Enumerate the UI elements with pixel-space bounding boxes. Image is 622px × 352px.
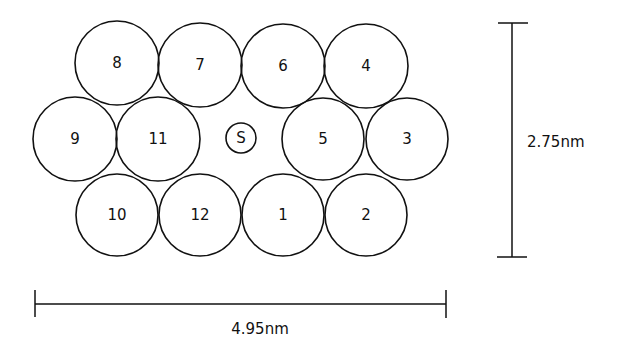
subunit-label: 2 — [361, 206, 371, 224]
subunit-8: 8 — [75, 21, 159, 105]
subunit-10: 10 — [76, 174, 158, 256]
central-subunit-s: S — [226, 123, 256, 153]
subunit-label: 7 — [195, 56, 205, 74]
subunit-label: 3 — [402, 130, 412, 148]
subunit-label: 1 — [278, 206, 288, 224]
subunit-2: 2 — [325, 174, 407, 256]
packing-diagram: 876491153101212 S 2.75nm 4.95nm — [0, 0, 622, 352]
subunit-3: 3 — [366, 98, 448, 180]
subunit-label: 5 — [318, 130, 328, 148]
height-label: 2.75nm — [527, 133, 585, 151]
center-label: S — [236, 129, 246, 147]
subunit-label: 4 — [361, 57, 371, 75]
width-scale-bar: 4.95nm — [35, 290, 446, 338]
subunit-4: 4 — [324, 24, 408, 108]
subunit-label: 12 — [190, 206, 209, 224]
subunit-12: 12 — [159, 174, 241, 256]
subunit-label: 9 — [70, 130, 80, 148]
height-scale-bar: 2.75nm — [497, 23, 585, 257]
subunit-label: 8 — [112, 54, 122, 72]
subunit-9: 9 — [33, 97, 117, 181]
subunit-label: 6 — [278, 57, 288, 75]
subunit-7: 7 — [158, 23, 242, 107]
subunit-label: 11 — [148, 130, 167, 148]
subunit-1: 1 — [242, 174, 324, 256]
subunit-label: 10 — [107, 206, 126, 224]
width-label: 4.95nm — [231, 320, 289, 338]
subunit-5: 5 — [282, 98, 364, 180]
subunit-6: 6 — [241, 24, 325, 108]
subunit-11: 11 — [116, 97, 200, 181]
